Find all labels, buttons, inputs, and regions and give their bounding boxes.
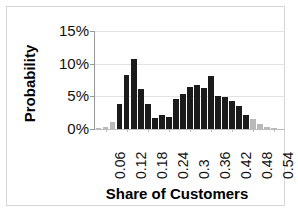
- y-axis-tick-label: 10%: [43, 56, 89, 71]
- histogram-bar: [236, 106, 242, 129]
- plot-area: [95, 31, 285, 129]
- histogram-bar: [222, 97, 228, 129]
- y-axis-tick: [90, 64, 95, 65]
- x-axis-tick: [148, 129, 149, 132]
- histogram-bar: [250, 119, 256, 129]
- x-axis-tick-label: 0.36: [217, 152, 233, 179]
- histogram-bar: [215, 96, 221, 129]
- x-axis-tick: [190, 129, 191, 132]
- y-axis-tick-label: 15%: [43, 23, 89, 38]
- histogram-bar: [229, 101, 235, 129]
- histogram-bar: [278, 129, 284, 130]
- x-axis-tick-label: 0.48: [259, 152, 275, 179]
- gridline: [95, 31, 285, 32]
- x-axis-tick-label: 0.3: [196, 160, 212, 179]
- y-axis-tick: [90, 96, 95, 97]
- x-axis-tick-label: 0.06: [112, 152, 128, 179]
- histogram-bar: [138, 89, 144, 129]
- histogram-bar: [173, 99, 179, 129]
- histogram-bar: [145, 104, 151, 129]
- histogram-bar: [194, 85, 200, 129]
- histogram-bar: [166, 117, 172, 129]
- histogram-bar: [117, 104, 123, 129]
- histogram-bar: [131, 59, 137, 129]
- x-axis-tick-label: 0.42: [238, 152, 254, 179]
- x-axis-tick: [274, 129, 275, 132]
- x-axis-tick: [106, 129, 107, 132]
- x-axis-tick-label: 0.12: [133, 152, 149, 179]
- y-axis-tick: [90, 129, 95, 130]
- x-axis-tick: [232, 129, 233, 132]
- x-axis-tick-label: 0.18: [154, 152, 170, 179]
- y-axis-tick-labels: 0%5%10%15%: [37, 7, 89, 207]
- x-axis-tick-labels: 0.060.120.180.240.30.360.420.480.54: [95, 133, 285, 181]
- histogram-bar: [159, 115, 165, 129]
- chart-frame: 0%5%10%15% Probability 0.060.120.180.240…: [6, 6, 285, 206]
- histogram-bar: [243, 115, 249, 129]
- histogram-bar: [264, 127, 270, 129]
- histogram-bar: [201, 88, 207, 129]
- histogram-bar: [96, 128, 102, 129]
- x-axis-tick: [169, 129, 170, 132]
- histogram-bar: [180, 94, 186, 129]
- x-axis-title: Share of Customers: [67, 185, 287, 202]
- y-axis-tick: [90, 31, 95, 32]
- histogram-bar: [257, 124, 263, 129]
- x-axis-tick-label: 0.54: [280, 152, 296, 179]
- x-axis-tick: [211, 129, 212, 132]
- y-axis-tick-label: 5%: [43, 88, 89, 103]
- histogram-bar: [152, 118, 158, 129]
- histogram-bar: [124, 75, 130, 129]
- gridline: [95, 64, 285, 65]
- y-axis-title: Probability: [21, 24, 38, 144]
- x-axis-tick-label: 0.24: [175, 152, 191, 179]
- y-axis-tick-label: 0%: [43, 121, 89, 136]
- histogram-bar: [187, 87, 193, 129]
- histogram-bar: [208, 76, 214, 129]
- x-axis-tick: [253, 129, 254, 132]
- histogram-bar: [110, 122, 116, 129]
- x-axis-tick: [127, 129, 128, 132]
